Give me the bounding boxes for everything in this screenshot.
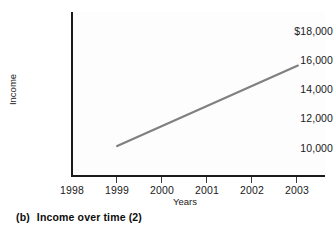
x-tick-label-2003: 2003: [275, 184, 319, 196]
y-tick-label-10000: 10,000: [267, 142, 333, 154]
caption-text: Income over time (2): [37, 211, 142, 223]
y-tick-label-14000: 14,000: [267, 83, 333, 95]
x-axis-title: Years: [72, 196, 298, 207]
caption-marker: (b): [16, 211, 30, 223]
x-tick-2003: [296, 177, 297, 183]
y-tick-label-16000: 16,000: [267, 54, 333, 66]
x-tick-2000: [161, 177, 162, 183]
x-tick-2001: [206, 177, 207, 183]
figure-caption: (b)Income over time (2): [16, 211, 142, 223]
x-tick-label-2000: 2000: [140, 184, 184, 196]
y-axis-title: Income: [7, 60, 18, 120]
figure-income-over-time-2: $18,000 16,000 14,000 12,000 10,000 1998…: [0, 0, 333, 232]
x-tick-label-2001: 2001: [185, 184, 229, 196]
x-tick-label-1998: 1998: [50, 184, 94, 196]
x-tick-label-1999: 1999: [95, 184, 139, 196]
y-axis-line: [71, 12, 73, 177]
x-tick-1999: [116, 177, 117, 183]
x-tick-label-2002: 2002: [230, 184, 274, 196]
y-tick-label-12000: 12,000: [267, 112, 333, 124]
y-tick-label-18000: $18,000: [267, 25, 333, 37]
x-axis-line: [71, 175, 325, 177]
x-tick-2002: [251, 177, 252, 183]
